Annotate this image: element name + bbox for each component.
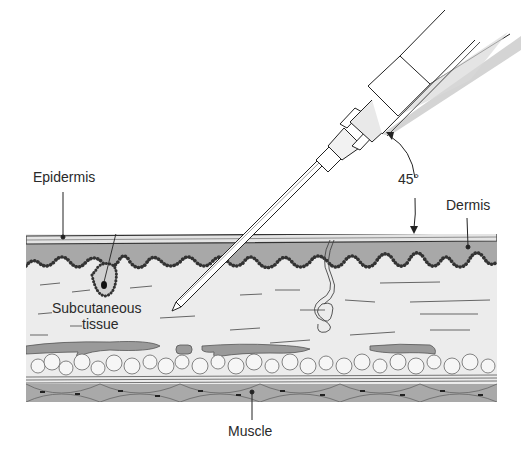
subcutaneous-label-line2: tissue [82, 316, 119, 332]
muscle-label: Muscle [228, 423, 272, 439]
epidermis-label: Epidermis [33, 169, 95, 185]
dermis-label: Dermis [446, 197, 490, 213]
subcutaneous-label-line1: Subcutaneous [52, 300, 142, 316]
injection-diagram: Epidermis Dermis 45° Subcutaneous tissue… [0, 0, 521, 451]
angle-label: 45° [398, 171, 419, 187]
diagram-canvas [0, 0, 521, 451]
syringe [316, 10, 521, 172]
muscle-layer [26, 384, 497, 402]
